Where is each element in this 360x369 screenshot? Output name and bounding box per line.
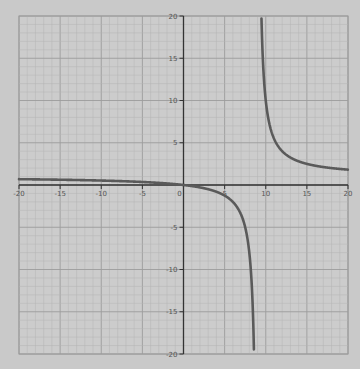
x-tick-label: -5 <box>139 190 146 198</box>
x-tick-label: -15 <box>54 190 65 198</box>
y-tick-label: 5 <box>173 139 177 147</box>
x-tick-label: 10 <box>261 190 270 198</box>
y-tick-label: -20 <box>166 351 177 359</box>
x-tick-label: -20 <box>13 190 24 198</box>
y-tick-label: 15 <box>169 55 178 63</box>
y-tick-label: 20 <box>169 13 178 21</box>
function-plot: -20-15-10-505101520-20-15-10-55101520 <box>0 0 360 369</box>
x-tick-label: -10 <box>96 190 107 198</box>
y-tick-label: 10 <box>169 97 178 105</box>
x-tick-label: 15 <box>302 190 311 198</box>
x-tick-label: 0 <box>177 190 181 198</box>
y-tick-label: -15 <box>166 308 177 316</box>
y-tick-label: -5 <box>171 224 178 232</box>
x-tick-label: 20 <box>344 190 353 198</box>
y-tick-label: -10 <box>166 266 177 274</box>
